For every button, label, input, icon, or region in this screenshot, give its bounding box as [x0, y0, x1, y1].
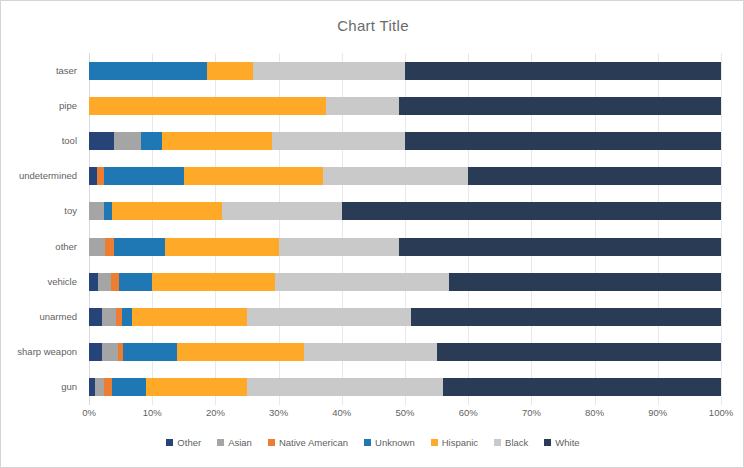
bar-segment[interactable]: [304, 343, 437, 361]
legend-swatch-icon: [364, 439, 371, 446]
bar-segment[interactable]: [152, 273, 275, 291]
bar-segment[interactable]: [449, 273, 721, 291]
bar-segment[interactable]: [405, 132, 721, 150]
x-axis-tick-label: 10%: [143, 407, 162, 418]
legend-swatch-icon: [544, 439, 551, 446]
bar-segment[interactable]: [104, 378, 112, 396]
bar-segment[interactable]: [184, 167, 323, 185]
y-axis-label: other: [1, 238, 77, 256]
legend-label: Native American: [279, 437, 348, 448]
bar-segment[interactable]: [111, 273, 119, 291]
bar-segment[interactable]: [102, 343, 118, 361]
bar-segment[interactable]: [165, 238, 279, 256]
bar-segment[interactable]: [146, 378, 247, 396]
bar-row[interactable]: [89, 202, 721, 220]
y-axis-label: pipe: [1, 97, 77, 115]
bar-segment[interactable]: [105, 238, 114, 256]
bar-segment[interactable]: [122, 308, 132, 326]
y-axis-label: tool: [1, 132, 77, 150]
bar-segment[interactable]: [468, 167, 721, 185]
legend-swatch-icon: [268, 439, 275, 446]
bar-segment[interactable]: [247, 308, 411, 326]
bar-segment[interactable]: [123, 343, 177, 361]
bar-segment[interactable]: [89, 343, 102, 361]
x-axis-tick-label: 60%: [459, 407, 478, 418]
x-axis-tick-label: 50%: [395, 407, 414, 418]
bar-segment[interactable]: [119, 273, 152, 291]
bar-segment[interactable]: [132, 308, 247, 326]
legend-swatch-icon: [166, 439, 173, 446]
bar-row[interactable]: [89, 238, 721, 256]
bar-segment[interactable]: [89, 132, 114, 150]
bar-segment[interactable]: [411, 308, 721, 326]
chart-frame: Chart Title taserpipetoolundeterminedtoy…: [0, 0, 744, 468]
chart-title: Chart Title: [1, 17, 744, 34]
bar-segment[interactable]: [112, 202, 222, 220]
bar-segment[interactable]: [437, 343, 721, 361]
bar-segment[interactable]: [104, 167, 184, 185]
bar-segment[interactable]: [89, 97, 326, 115]
bar-segment[interactable]: [114, 132, 141, 150]
bar-segment[interactable]: [405, 62, 721, 80]
bar-segment[interactable]: [323, 167, 468, 185]
legend-item[interactable]: Black: [494, 437, 528, 448]
bar-row[interactable]: [89, 273, 721, 291]
bar-segment[interactable]: [89, 202, 104, 220]
bar-segment[interactable]: [141, 132, 162, 150]
legend-item[interactable]: Other: [166, 437, 201, 448]
bar-segment[interactable]: [162, 132, 273, 150]
bar-segment[interactable]: [95, 378, 104, 396]
legend-label: Asian: [228, 437, 252, 448]
bar-row[interactable]: [89, 62, 721, 80]
y-axis-labels: taserpipetoolundeterminedtoyothervehicle…: [1, 53, 83, 405]
bar-segment[interactable]: [272, 132, 405, 150]
bar-row[interactable]: [89, 343, 721, 361]
y-axis-label: gun: [1, 378, 77, 396]
legend-label: Other: [177, 437, 201, 448]
y-axis-label: unarmed: [1, 308, 77, 326]
bar-segment[interactable]: [399, 97, 721, 115]
legend-item[interactable]: Hispanic: [431, 437, 478, 448]
x-axis-tick-label: 80%: [585, 407, 604, 418]
x-axis-tick-label: 70%: [522, 407, 541, 418]
bar-segment[interactable]: [98, 273, 111, 291]
bar-segment[interactable]: [102, 308, 117, 326]
bar-row[interactable]: [89, 167, 721, 185]
bar-segment[interactable]: [89, 167, 97, 185]
bar-segment[interactable]: [342, 202, 721, 220]
legend-item[interactable]: Unknown: [364, 437, 415, 448]
bar-segment[interactable]: [443, 378, 721, 396]
bar-segment[interactable]: [89, 308, 102, 326]
legend-item[interactable]: White: [544, 437, 579, 448]
bar-segment[interactable]: [89, 62, 207, 80]
bar-segment[interactable]: [222, 202, 342, 220]
x-axis-tick-label: 0%: [82, 407, 96, 418]
bar-segment[interactable]: [253, 62, 405, 80]
bar-segment[interactable]: [399, 238, 721, 256]
y-axis-label: vehicle: [1, 273, 77, 291]
legend-swatch-icon: [431, 439, 438, 446]
x-axis-tick-label: 30%: [269, 407, 288, 418]
bar-segment[interactable]: [89, 273, 98, 291]
bar-row[interactable]: [89, 132, 721, 150]
bar-segment[interactable]: [207, 62, 253, 80]
legend-item[interactable]: Native American: [268, 437, 348, 448]
bar-segment[interactable]: [177, 343, 303, 361]
bar-segment[interactable]: [89, 238, 105, 256]
y-axis-label: undetermined: [1, 167, 77, 185]
legend-item[interactable]: Asian: [217, 437, 252, 448]
legend-label: Black: [505, 437, 528, 448]
bar-segment[interactable]: [104, 202, 112, 220]
bar-row[interactable]: [89, 308, 721, 326]
bar-row[interactable]: [89, 97, 721, 115]
bar-row[interactable]: [89, 378, 721, 396]
x-axis-tick-label: 100%: [709, 407, 733, 418]
bar-segment[interactable]: [112, 378, 146, 396]
bar-segment[interactable]: [247, 378, 443, 396]
legend-swatch-icon: [217, 439, 224, 446]
bar-segment[interactable]: [275, 273, 449, 291]
y-axis-label: sharp weapon: [1, 343, 77, 361]
bar-segment[interactable]: [326, 97, 399, 115]
bar-segment[interactable]: [114, 238, 165, 256]
bar-segment[interactable]: [279, 238, 399, 256]
